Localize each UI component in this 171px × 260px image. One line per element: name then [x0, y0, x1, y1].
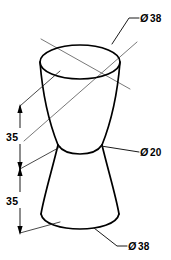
vertical-dimension-chain [17, 71, 60, 235]
extension-line-top [20, 71, 60, 106]
bottom-diameter-leader [94, 228, 127, 246]
waist-diameter-symbol: Ø [140, 146, 149, 158]
top-diameter-leader-line [112, 18, 139, 44]
top-diameter-leader [112, 18, 139, 44]
double-cone-drawing: Ø 38 Ø 20 Ø 38 35 35 [0, 0, 171, 260]
waist-diameter-leader-line [101, 146, 139, 152]
upper-cone-left-silhouette [40, 62, 58, 145]
waist-upper-edge-arc [58, 145, 102, 154]
lower-cone-right-silhouette [102, 145, 119, 214]
center-line-minor [41, 39, 130, 89]
waist-diameter-leader [101, 146, 139, 152]
waist-diameter-value: 20 [150, 147, 162, 158]
dim-arrow-bottom [17, 226, 22, 235]
technical-drawing-canvas: Ø 38 Ø 20 Ø 38 35 35 [0, 0, 171, 260]
lower-height-value: 35 [6, 195, 18, 207]
top-diameter-value: 38 [150, 13, 162, 24]
upper-height-value: 35 [6, 131, 18, 143]
bottom-face-arc [41, 214, 119, 229]
dim-arrow-top [17, 104, 22, 113]
lower-cone-left-silhouette [41, 145, 58, 214]
double-cone-solid [40, 45, 120, 229]
top-ellipse-center-lines [24, 39, 137, 141]
top-face-ellipse [40, 45, 120, 79]
extension-line-bottom [20, 222, 60, 233]
top-diameter-symbol: Ø [140, 12, 149, 24]
bottom-diameter-value: 38 [138, 241, 150, 252]
bottom-diameter-symbol: Ø [128, 240, 137, 252]
bottom-diameter-leader-line [94, 228, 127, 246]
